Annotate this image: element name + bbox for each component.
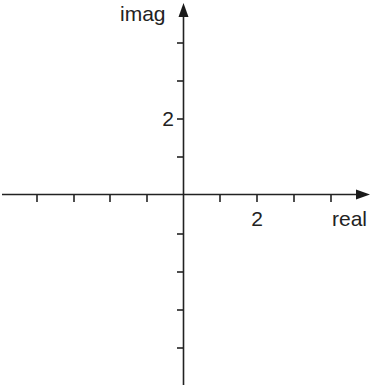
imag-tick-label: 2 — [162, 107, 174, 130]
imag-axis-arrow-icon — [179, 3, 189, 17]
real-tick-label: 2 — [251, 207, 263, 230]
imag-axis: 2 imag — [120, 2, 189, 385]
complex-plane-diagram: 2 real 2 imag — [0, 0, 378, 387]
real-axis: 2 real — [2, 190, 370, 231]
real-axis-arrow-icon — [356, 190, 370, 200]
real-axis-label: real — [332, 207, 367, 230]
imag-axis-label: imag — [120, 2, 166, 25]
